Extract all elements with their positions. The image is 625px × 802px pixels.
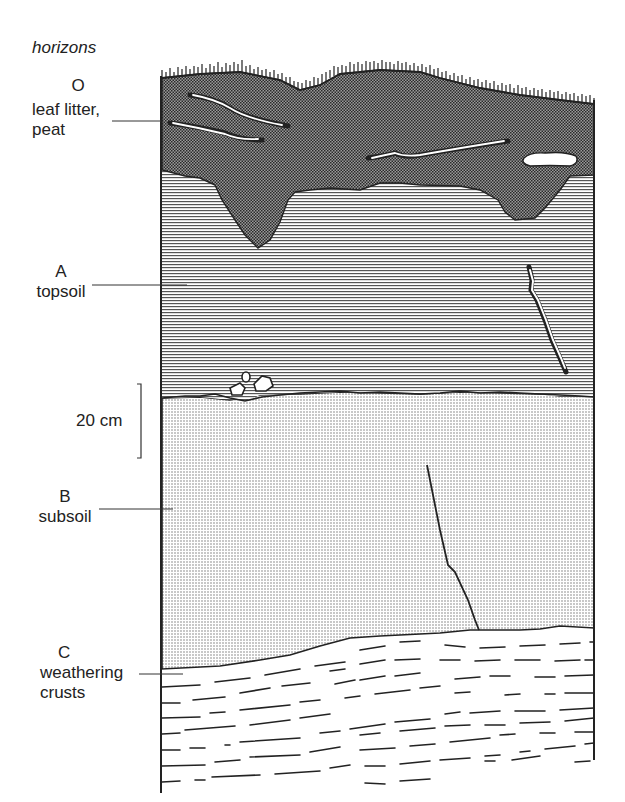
horizon-b-letter: B xyxy=(36,487,94,507)
scale-bracket xyxy=(137,384,141,458)
horizon-c-letter: C xyxy=(40,643,120,663)
horizon-o-name-line1: leaf litter, xyxy=(32,100,100,120)
horizon-c-label: C weathering crusts xyxy=(40,643,120,703)
horizon-c-name-line2: crusts xyxy=(40,683,120,703)
horizon-b-label: B subsoil xyxy=(36,487,94,527)
horizon-o-name-line2: peat xyxy=(32,120,100,140)
horizon-a-label: A topsoil xyxy=(32,262,90,302)
horizon-b-name: subsoil xyxy=(36,507,94,527)
horizon-o-letter: O xyxy=(38,76,118,96)
horizon-o-label: O xyxy=(38,76,118,96)
horizon-a-letter: A xyxy=(32,262,90,282)
scale-label: 20 cm xyxy=(76,411,122,431)
horizon-c-name-line1: weathering xyxy=(40,663,120,683)
horizon-o-name: leaf litter, peat xyxy=(32,100,100,140)
diagram-title: horizons xyxy=(32,38,96,58)
horizon-a-name: topsoil xyxy=(32,282,90,302)
horizon-b-region xyxy=(162,392,594,669)
